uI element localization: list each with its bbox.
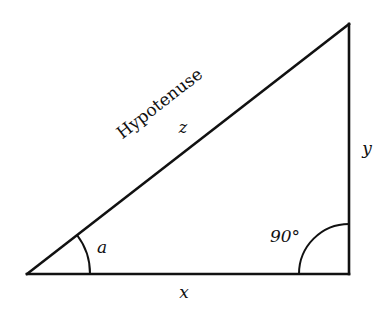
hypotenuse-label: Hypotenuse (112, 64, 206, 143)
right-angle-label: 90° (270, 226, 300, 246)
right-angle-arc (299, 224, 349, 274)
hypotenuse-variable-z: z (178, 118, 188, 137)
right-triangle-diagram: Hypotenuse z y x a 90° (0, 0, 390, 309)
side-label-y: y (361, 138, 372, 158)
side-label-x: x (179, 282, 189, 302)
angle-label-a: a (97, 237, 107, 257)
angle-a-arc (77, 235, 90, 274)
hypotenuse-side-z (27, 24, 349, 274)
